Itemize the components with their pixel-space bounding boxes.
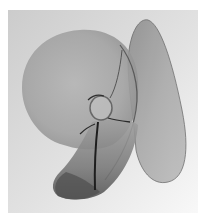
sculpture-illustration — [0, 0, 205, 218]
sculpture-photo — [0, 0, 205, 218]
central-ring — [90, 96, 112, 120]
